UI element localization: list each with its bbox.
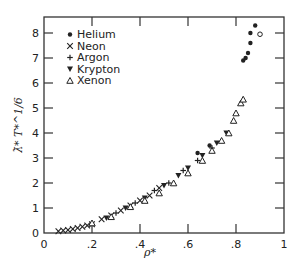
legend-label-xenon: Xenon: [77, 74, 112, 87]
data-point-helium: [195, 151, 199, 155]
y-tick-label: 5: [32, 102, 39, 115]
data-point-argon: [132, 200, 138, 206]
legend-marker-xenon: [67, 78, 73, 84]
data-point-neon: [75, 225, 81, 231]
y-tick-label: 0: [32, 227, 39, 240]
data-point-argon: [152, 188, 158, 194]
data-point-neon: [70, 226, 76, 232]
data-point-xenon: [218, 138, 224, 144]
legend-marker-krypton: [67, 67, 73, 73]
x-tick-label: .2: [87, 238, 98, 251]
data-point-open-circle: [258, 32, 263, 37]
data-point-helium: [207, 143, 211, 147]
data-point-helium: [246, 51, 250, 55]
data-point-argon: [113, 210, 119, 216]
data-point-helium: [248, 41, 252, 45]
data-point-neon: [118, 208, 124, 214]
legend-marker-helium: [68, 32, 72, 36]
data-point-helium: [243, 56, 247, 60]
y-tick-label: 4: [32, 127, 39, 140]
x-tick-label: 1: [281, 238, 288, 251]
scatter-chart: 0.2.4.6.81012345678ρ*λ̄* T*^1/6HeliumNeo…: [0, 0, 298, 267]
x-tick-label: .6: [183, 238, 194, 251]
data-point-neon: [99, 216, 105, 222]
data-point-xenon: [233, 110, 239, 116]
legend-marker-argon: [67, 55, 73, 61]
y-axis-label: λ̄* T*^1/6: [12, 97, 25, 154]
data-point-argon: [180, 168, 186, 174]
y-tick-label: 6: [32, 77, 39, 90]
x-tick-label: 0: [41, 238, 48, 251]
data-point-xenon: [240, 96, 246, 102]
legend-marker-neon: [67, 43, 73, 49]
data-point-helium: [253, 23, 257, 27]
x-axis-label: ρ*: [143, 246, 156, 259]
y-tick-label: 1: [32, 202, 39, 215]
x-tick-label: .8: [231, 238, 242, 251]
data-point-krypton: [175, 173, 181, 179]
y-tick-label: 7: [32, 52, 39, 65]
data-point-neon: [80, 224, 86, 230]
data-point-neon: [65, 227, 71, 233]
data-point-xenon: [108, 214, 114, 220]
data-point-xenon: [127, 204, 133, 210]
data-point-xenon: [230, 118, 236, 124]
y-tick-label: 2: [32, 177, 39, 190]
y-tick-label: 8: [32, 27, 39, 40]
data-point-helium: [248, 31, 252, 35]
y-tick-label: 3: [32, 152, 39, 165]
